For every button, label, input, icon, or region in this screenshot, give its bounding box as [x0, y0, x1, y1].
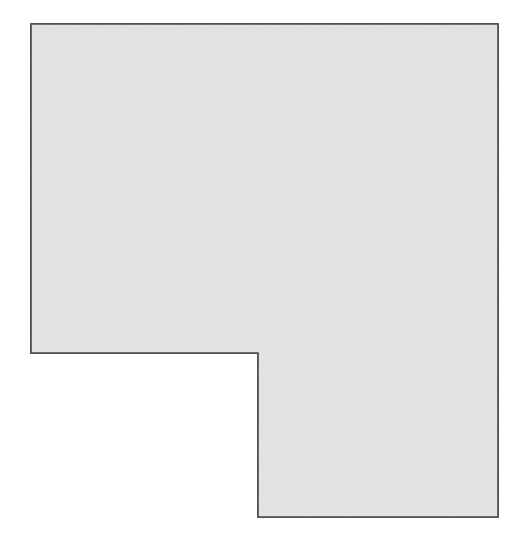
shape-canvas — [0, 0, 523, 550]
shape-canvas-svg — [0, 0, 523, 550]
